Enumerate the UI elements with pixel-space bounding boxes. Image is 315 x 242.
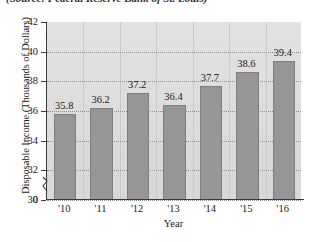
bar-14[interactable]	[200, 86, 223, 200]
y-origin-label: 0	[16, 195, 38, 205]
x-tick-label: '12	[117, 203, 157, 214]
y-tick-mark	[41, 111, 46, 112]
gridline	[47, 81, 301, 82]
bar-13[interactable]	[163, 105, 186, 200]
x-tick-label: '10	[44, 203, 84, 214]
bar-value-label: 36.4	[154, 91, 194, 102]
x-tick-label: '15	[226, 203, 266, 214]
y-tick-label: 34	[16, 136, 38, 146]
bar-value-label: 39.4	[263, 47, 303, 58]
x-tick-label: '11	[81, 203, 121, 214]
y-tick-label: 36	[16, 106, 38, 116]
y-tick-mark	[41, 200, 46, 201]
y-tick-mark	[41, 170, 46, 171]
y-tick-label: 42	[16, 17, 38, 27]
y-tick-mark	[41, 22, 46, 23]
y-tick-label: 40	[16, 47, 38, 57]
bar-15[interactable]	[236, 72, 259, 200]
bar-value-label: 35.8	[44, 100, 84, 111]
bar-value-label: 38.6	[226, 58, 266, 69]
bar-value-label: 36.2	[81, 94, 121, 105]
bar-chart-figure: Disposable Income (Thousands of Dollars)…	[0, 0, 315, 242]
gridline	[47, 200, 301, 201]
x-axis-title: Year	[46, 218, 301, 229]
y-axis-break-icon	[40, 176, 53, 192]
y-tick-label: 38	[16, 76, 38, 86]
bar-10[interactable]	[54, 114, 77, 200]
y-tick-mark	[41, 81, 46, 82]
y-tick-mark	[41, 52, 46, 53]
bar-16[interactable]	[273, 61, 296, 200]
bar-value-label: 37.2	[117, 79, 157, 90]
x-tick-label: '16	[263, 203, 303, 214]
y-tick-mark	[41, 141, 46, 142]
x-tick-label: '14	[190, 203, 230, 214]
bar-11[interactable]	[90, 108, 113, 200]
x-tick-label: '13	[154, 203, 194, 214]
bar-12[interactable]	[127, 93, 150, 200]
bar-value-label: 37.7	[190, 72, 230, 83]
x-axis-line	[46, 199, 304, 200]
y-tick-label: 32	[16, 165, 38, 175]
